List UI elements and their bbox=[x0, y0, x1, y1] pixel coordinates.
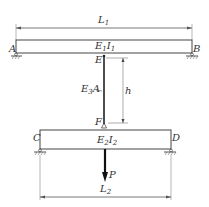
label-c: C bbox=[33, 133, 41, 143]
label-p: P bbox=[109, 170, 116, 180]
label-h: h bbox=[125, 86, 131, 96]
label-b: B bbox=[193, 44, 200, 54]
label-l2: L2 bbox=[100, 184, 111, 196]
label-l1: L1 bbox=[98, 15, 109, 27]
label-e2i2: E2I2 bbox=[97, 135, 117, 147]
support-c-icon bbox=[34, 149, 46, 155]
label-e3a: E3A bbox=[81, 84, 100, 96]
load-arrow-icon bbox=[102, 149, 108, 182]
label-f: F bbox=[95, 117, 102, 127]
beam-diagram bbox=[0, 0, 209, 207]
label-a: A bbox=[9, 44, 16, 54]
support-d-icon bbox=[164, 149, 176, 155]
label-e-point: E bbox=[95, 55, 102, 65]
label-d: D bbox=[172, 133, 180, 143]
label-e1i1: E1I1 bbox=[95, 41, 115, 53]
